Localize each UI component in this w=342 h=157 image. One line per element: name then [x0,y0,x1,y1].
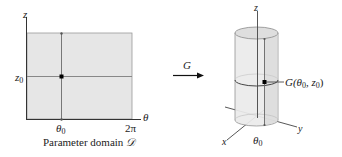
x-axis-label: x [221,136,227,147]
point-G-theta0-z0 [263,80,267,84]
mapping-arrow: G [173,59,204,79]
cylinder-top [235,27,278,39]
theta0-top-tick [60,32,62,34]
theta0-bottom-mark [263,124,265,126]
theta0-bottom-tick [60,118,62,120]
theta0-tick-label: θ0 [56,122,65,136]
z-axis-3d-label: z [253,2,258,13]
domain-caption: Parameter domain 𝒟 [43,136,137,148]
cylinder-shade [264,33,278,125]
theta0-3d-label: θ0 [253,134,262,148]
two-pi-tick-label: 2π [125,122,137,134]
z-axis-label: z [22,8,28,20]
y-axis-label: y [297,123,303,134]
z0-tick-label: z0 [14,71,23,85]
point-theta0-z0 [60,75,64,79]
cylinder-panel: z x y G(θ0, z0) θ0 [221,2,324,148]
mapping-label: G [183,59,191,71]
point-G-label: G(θ0, z0) [285,76,324,90]
theta0-top-mark [263,38,265,40]
diagram-canvas: z θ z0 θ0 2π Parameter domain 𝒟 G [0,0,342,157]
arrowhead-icon [197,73,204,79]
parameter-domain-panel: z θ z0 θ0 2π Parameter domain 𝒟 [14,8,149,148]
theta-axis-label: θ [143,111,149,123]
